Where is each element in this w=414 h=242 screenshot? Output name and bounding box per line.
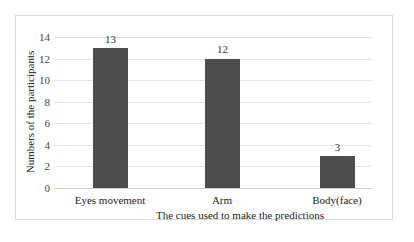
y-tick-14: 14 (20, 31, 50, 43)
data-label-arm: 12 (205, 43, 240, 55)
y-axis-label: Numbers of the participants (24, 51, 36, 174)
chart-frame (15, 15, 393, 220)
x-axis-label: The cues used to make the predictions (100, 209, 380, 221)
x-tick-body-face: Body(face) (282, 194, 392, 206)
data-label-body-face: 3 (320, 141, 355, 153)
bar-arm (205, 59, 240, 189)
y-tick-0: 0 (20, 182, 50, 194)
bar-body-face (320, 156, 355, 188)
x-tick-arm: Arm (167, 194, 277, 206)
x-tick-eyes-movement: Eyes movement (55, 194, 165, 206)
bar-eyes-movement (93, 48, 128, 188)
gridline-0 (54, 188, 372, 189)
data-label-eyes-movement: 13 (93, 33, 128, 45)
